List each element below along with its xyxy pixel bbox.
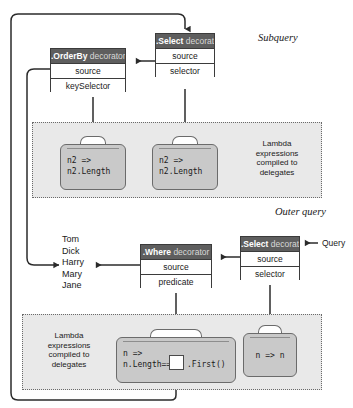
subquery-selector-line-2: n2.Length — [152, 167, 218, 177]
subquery-orderby-row-keyselector: keySelector — [51, 79, 125, 93]
outer-select-decorator[interactable]: .Select decorator source selector — [240, 236, 300, 280]
names-list-item-2: Dick — [62, 246, 84, 258]
outer-select-row-source: source — [241, 252, 299, 267]
subquery-select-suffix: decorator — [183, 36, 214, 46]
outer-caption-line-3: compiled to — [32, 350, 106, 360]
outer-query-section-label: Outer query — [275, 206, 326, 217]
subquery-section-label: Subquery — [258, 32, 298, 43]
outer-where-suffix: decorator — [171, 247, 209, 257]
orderby-keyselector-line-2: n2.Length — [60, 167, 126, 177]
outer-select-suffix: decorator — [268, 239, 299, 249]
subquery-caption-line-1: Lambda — [240, 139, 314, 149]
outer-select-header: .Select decorator — [241, 237, 299, 252]
subquery-select-selector-delegate: n2 => n2.Length — [152, 136, 218, 190]
subquery-select-decorator[interactable]: .Select decorator source selector — [155, 33, 215, 77]
subquery-select-header: .Select decorator — [156, 34, 214, 49]
diagram-canvas: Subquery .Select decorator source select… — [0, 0, 353, 408]
outer-selector-text: n => n — [243, 351, 297, 361]
outer-caption-line-1: Lambda — [32, 331, 106, 341]
outer-caption-line-4: delegates — [32, 360, 106, 370]
subquery-orderby-method: .OrderBy — [51, 51, 87, 61]
outer-select-selector-delegate: n => n — [243, 325, 297, 377]
outer-where-row-source: source — [141, 260, 211, 275]
outer-where-method: .Where — [143, 247, 171, 257]
where-predicate-line-2-suffix: .First() — [187, 360, 236, 370]
names-list: Tom Dick Harry Mary Jane — [62, 234, 84, 292]
outer-caption-line-2: expressions — [32, 341, 106, 351]
orderby-keyselector-delegate: n2 => n2.Length — [60, 136, 126, 190]
outer-where-header: .Where decorator — [141, 245, 211, 260]
names-list-item-1: Tom — [62, 234, 84, 246]
subquery-select-row-selector: selector — [156, 64, 214, 78]
subquery-orderby-header: .OrderBy decorator — [51, 49, 125, 64]
subquery-result-placeholder[interactable] — [169, 355, 184, 370]
names-list-item-3: Harry — [62, 257, 84, 269]
subquery-caption-line-2: expressions — [240, 149, 314, 159]
outer-where-decorator[interactable]: .Where decorator source predicate — [140, 244, 212, 288]
subquery-caption-line-4: delegates — [240, 168, 314, 178]
names-list-item-5: Jane — [62, 280, 84, 292]
query-entry-label: Query — [322, 238, 345, 248]
subquery-selector-line-1: n2 => — [152, 156, 218, 166]
subquery-lambda-caption: Lambda expressions compiled to delegates — [240, 139, 314, 177]
names-list-item-4: Mary — [62, 269, 84, 281]
subquery-select-method: .Select — [156, 36, 183, 46]
subquery-orderby-suffix: decorator — [87, 51, 125, 61]
outer-where-row-predicate: predicate — [141, 275, 211, 289]
outer-select-method: .Select — [241, 239, 268, 249]
subquery-select-row-source: source — [156, 49, 214, 64]
orderby-keyselector-line-1: n2 => — [60, 156, 126, 166]
subquery-caption-line-3: compiled to — [240, 158, 314, 168]
outer-lambda-caption: Lambda expressions compiled to delegates — [32, 331, 106, 369]
subquery-orderby-decorator[interactable]: .OrderBy decorator source keySelector — [50, 48, 126, 92]
subquery-orderby-row-source: source — [51, 64, 125, 79]
outer-select-row-selector: selector — [241, 267, 299, 281]
